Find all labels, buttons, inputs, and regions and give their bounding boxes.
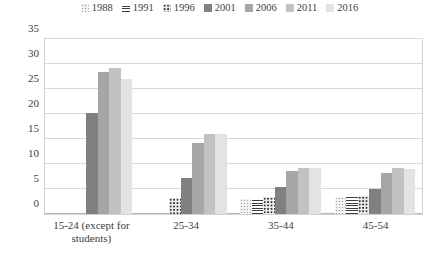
- legend-swatch-icon: [204, 4, 212, 12]
- legend-label: 1988: [92, 3, 113, 14]
- bar-2016[interactable]: [309, 168, 321, 214]
- bar-1988[interactable]: [335, 197, 347, 215]
- bar-2011[interactable]: [392, 168, 404, 214]
- bar-group: [45, 39, 139, 214]
- bar-2001[interactable]: [369, 189, 381, 214]
- legend-item-2006[interactable]: 2006: [245, 3, 277, 14]
- bar-2011[interactable]: [204, 134, 216, 214]
- y-axis-tick-label: 35: [1, 23, 39, 34]
- y-axis-tick-label: 10: [1, 148, 39, 159]
- legend-swatch-icon: [163, 4, 171, 12]
- legend-item-2011[interactable]: 2011: [286, 3, 318, 14]
- legend-swatch-icon: [326, 4, 334, 12]
- bar-2001[interactable]: [181, 178, 193, 214]
- y-axis-tick-label: 0: [1, 198, 39, 209]
- legend-swatch-icon: [122, 4, 130, 12]
- legend-swatch-icon: [81, 4, 89, 12]
- bar-1996[interactable]: [263, 197, 275, 214]
- bar-2006[interactable]: [286, 171, 298, 214]
- bar-1991[interactable]: [252, 198, 264, 215]
- bar-groups: [45, 39, 422, 214]
- bar-2011[interactable]: [298, 168, 310, 214]
- x-axis-category-label: 35-44: [234, 219, 329, 245]
- legend-item-2016[interactable]: 2016: [326, 3, 358, 14]
- x-axis-category-label: 45-54: [328, 219, 423, 245]
- bar-group: [139, 39, 233, 214]
- bar-group: [328, 39, 422, 214]
- y-axis-tick-label: 25: [1, 73, 39, 84]
- bar-group: [234, 39, 328, 214]
- legend-item-1996[interactable]: 1996: [163, 3, 195, 14]
- y-axis-tick-label: 20: [1, 98, 39, 109]
- y-axis-tick-label: 5: [1, 173, 39, 184]
- bar-2006[interactable]: [192, 143, 204, 214]
- bar-2006[interactable]: [98, 72, 110, 215]
- legend-label: 2016: [337, 3, 358, 14]
- bar-chart: 1988199119962001200620112016 05101520253…: [0, 0, 439, 267]
- bar-1996[interactable]: [358, 196, 370, 214]
- legend-item-1988[interactable]: 1988: [81, 3, 113, 14]
- bar-2006[interactable]: [381, 173, 393, 215]
- legend-label: 1991: [133, 3, 154, 14]
- bar-2001[interactable]: [86, 113, 98, 215]
- legend-label: 2006: [256, 3, 277, 14]
- bar-2016[interactable]: [404, 169, 416, 215]
- legend-swatch-icon: [286, 4, 294, 12]
- legend-label: 2011: [297, 3, 318, 14]
- bar-1996[interactable]: [169, 198, 181, 215]
- legend-swatch-icon: [245, 4, 253, 12]
- chart-legend: 1988199119962001200620112016: [0, 3, 439, 14]
- plot-area: 05101520253035: [44, 38, 423, 215]
- legend-label: 2001: [215, 3, 236, 14]
- x-axis-category-label: 25-34: [139, 219, 234, 245]
- legend-item-2001[interactable]: 2001: [204, 3, 236, 14]
- legend-label: 1996: [174, 3, 195, 14]
- bar-2001[interactable]: [275, 187, 287, 215]
- x-axis-labels: 15-24 (except for students)25-3435-4445-…: [44, 219, 423, 245]
- y-axis-tick-label: 15: [1, 123, 39, 134]
- bar-2011[interactable]: [109, 68, 121, 215]
- bar-2016[interactable]: [121, 79, 133, 215]
- bar-1991[interactable]: [346, 197, 358, 215]
- legend-item-1991[interactable]: 1991: [122, 3, 154, 14]
- bar-2016[interactable]: [215, 134, 227, 214]
- x-axis-category-label: 15-24 (except for students): [44, 219, 139, 245]
- bar-1988[interactable]: [240, 199, 252, 214]
- y-axis-tick-label: 30: [1, 48, 39, 59]
